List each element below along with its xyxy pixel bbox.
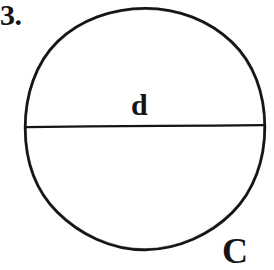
diameter-line: [26, 125, 264, 127]
geometry-figure: 3. d C: [0, 0, 274, 270]
circle-outline-ink-shadow: [26, 9, 264, 248]
circle-diagram-canvas: [0, 0, 274, 270]
diameter-label: d: [131, 90, 148, 120]
item-number-label: 3.: [0, 0, 22, 30]
circumference-label: C: [222, 233, 248, 269]
